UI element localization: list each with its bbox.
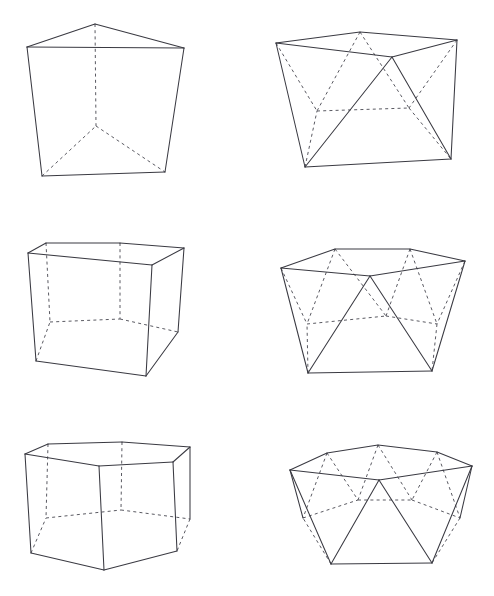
visible-top-edge <box>437 452 472 466</box>
hidden-lateral-edge <box>378 445 412 500</box>
hidden-lateral-edge <box>437 452 460 518</box>
visible-lateral-edge <box>432 466 472 563</box>
visible-lateral-edge <box>290 470 331 564</box>
figure-hexagonal-antiprism <box>0 0 494 596</box>
visible-top-edge <box>290 453 327 470</box>
hidden-bottom-edge <box>303 500 358 518</box>
hidden-bottom-edge <box>303 518 331 564</box>
solid-hexagonal-antiprism <box>0 0 494 596</box>
hidden-bottom-edge <box>432 518 460 563</box>
visible-top-edge <box>327 445 378 453</box>
visible-top-edge <box>379 466 472 480</box>
visible-lateral-edge <box>290 470 303 518</box>
hidden-bottom-edge <box>412 500 460 518</box>
figure-sheet <box>0 0 494 596</box>
visible-lateral-edge <box>379 480 432 563</box>
hidden-lateral-edge <box>412 452 437 500</box>
visible-bottom-edge <box>331 563 432 564</box>
visible-lateral-edge <box>331 480 379 564</box>
hidden-lateral-edge <box>327 453 358 500</box>
visible-top-edge <box>378 445 437 452</box>
hidden-lateral-edge <box>358 445 378 500</box>
visible-top-edge <box>290 470 379 480</box>
